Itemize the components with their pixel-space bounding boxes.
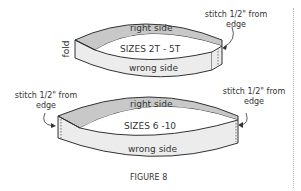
dotted-margin-line <box>293 8 294 188</box>
bottom-size-label: SIZES 6 -10 <box>124 121 176 131</box>
top-stitch-note-line1: stitch 1/2" from <box>196 10 276 20</box>
bottom-inner-label: wrong side <box>128 144 177 154</box>
top-inner-label: wrong side <box>129 63 178 73</box>
figure-caption: FIGURE 8 <box>130 173 167 182</box>
bottom-left-stitch-note-line1: stitch 1/2" from <box>10 91 82 101</box>
bottom-right-stitch-note-line1: stitch 1/2" from <box>214 87 294 97</box>
top-stitch-note-line2: edge <box>196 20 276 30</box>
top-size-label: SIZES 2T - 5T <box>120 44 180 54</box>
bottom-left-stitch-note: stitch 1/2" from edge <box>10 91 82 111</box>
bottom-right-stitch-note-line2: edge <box>214 97 294 107</box>
bottom-left-stitch-note-line2: edge <box>10 101 82 111</box>
bottom-outer-label: right side <box>130 99 172 109</box>
bottom-right-stitch-note: stitch 1/2" from edge <box>214 87 294 107</box>
top-outer-label: right side <box>130 23 172 33</box>
fold-label: fold <box>61 41 71 58</box>
top-stitch-note: stitch 1/2" from edge <box>196 10 276 30</box>
